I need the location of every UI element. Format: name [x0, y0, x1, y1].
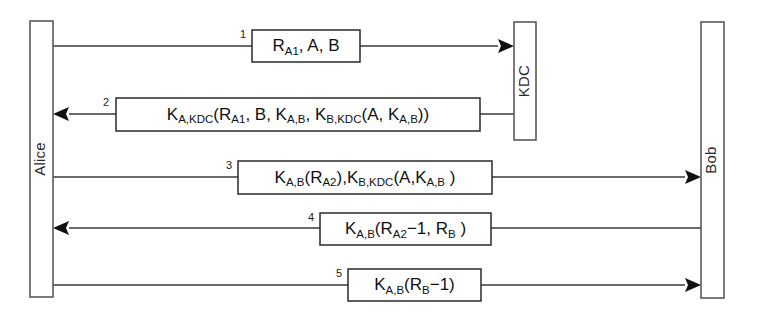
arrow-head-icon-5 [685, 278, 701, 292]
arrow-head-icon-3 [685, 170, 701, 184]
message-box-group-1: RA1, A, B1 [240, 28, 360, 62]
actor-lifeline-kdc: KDC [514, 22, 536, 140]
message-sequence-number-3: 3 [226, 159, 232, 171]
arrow-head-icon-4 [53, 221, 69, 235]
message-box-group-3: KA,B(RA2),KB,KDC(A,KA,B )3 [226, 159, 492, 194]
message-box-group-5: KA,B(RB−1)5 [336, 267, 481, 301]
diagram-canvas: AliceKDCBob RA1, A, B1KA,KDC(RA1, B, KA,… [0, 0, 767, 315]
message-sequence-number-4: 4 [308, 211, 314, 223]
actor-lifeline-bob: Bob [701, 22, 724, 298]
message-sequence-number-2: 2 [103, 96, 109, 108]
message-sequence-number-1: 1 [240, 28, 246, 40]
message-box-group-2: KA,KDC(RA1, B, KA,B, KB,KDC(A, KA,B))2 [103, 96, 480, 131]
message-box-group-4: KA,B(RA2−1, RB )4 [308, 211, 491, 245]
arrow-head-icon-2 [53, 107, 69, 121]
actor-label-alice: Alice [31, 142, 48, 176]
sequence-diagram: AliceKDCBob RA1, A, B1KA,KDC(RA1, B, KA,… [0, 0, 767, 315]
message-boxes-layer: RA1, A, B1KA,KDC(RA1, B, KA,B, KB,KDC(A,… [103, 28, 492, 301]
actor-label-kdc: KDC [515, 65, 532, 97]
actor-lifeline-alice: Alice [30, 21, 53, 297]
arrow-head-icon-1 [498, 39, 514, 53]
actor-label-bob: Bob [702, 146, 719, 173]
message-sequence-number-5: 5 [336, 267, 342, 279]
actor-lifelines-layer: AliceKDCBob [30, 21, 724, 298]
message-label-1: RA1, A, B [273, 36, 340, 56]
